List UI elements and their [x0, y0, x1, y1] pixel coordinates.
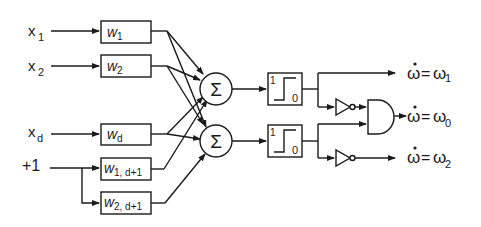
- svg-text:2: 2: [445, 158, 451, 170]
- not-gate-2: [336, 150, 395, 166]
- input-x1: x 1: [28, 22, 44, 43]
- weight-w1-bias: w 1, d+1: [101, 158, 151, 180]
- svg-text:Σ: Σ: [210, 131, 222, 152]
- svg-text:=: =: [421, 65, 430, 82]
- svg-text:ω: ω: [407, 107, 420, 126]
- weight-w2: w 2: [101, 55, 151, 77]
- svg-text:x: x: [28, 57, 36, 74]
- and-gate: [368, 100, 406, 134]
- svg-text:=: =: [421, 149, 430, 166]
- svg-text:x: x: [28, 22, 36, 39]
- svg-text:d: d: [37, 132, 43, 144]
- weight-w1: w 1: [101, 21, 151, 43]
- weight-w2-bias: w 2, d+1: [101, 192, 151, 214]
- summer-2: Σ: [200, 125, 232, 157]
- svg-text:ω: ω: [407, 148, 420, 167]
- output-omega2: ω = ω 2: [407, 146, 451, 170]
- svg-text:1: 1: [270, 75, 276, 86]
- svg-text:1: 1: [38, 31, 44, 43]
- svg-text:0: 0: [445, 117, 451, 129]
- svg-text:=: =: [421, 108, 430, 125]
- svg-text:1: 1: [270, 127, 276, 138]
- not-gate-1: [336, 99, 366, 115]
- svg-text:1: 1: [445, 72, 451, 84]
- svg-text:2: 2: [38, 66, 44, 78]
- network-diagram: x 1 x 2 x d +1 w 1 w 2 w d w 1, d+1 w 2,: [0, 0, 481, 227]
- output-omega1: ω = ω 1: [407, 62, 451, 84]
- input-bias: +1: [22, 157, 40, 174]
- connections: [151, 31, 207, 203]
- threshold-2: 1 0: [268, 125, 302, 157]
- svg-text:ω: ω: [407, 64, 420, 83]
- input-xd: x d: [28, 123, 43, 144]
- svg-text:1, d+1: 1, d+1: [114, 167, 143, 178]
- svg-text:d: d: [117, 133, 123, 144]
- summer-1: Σ: [200, 73, 232, 105]
- svg-text:2: 2: [117, 65, 123, 76]
- svg-text:Σ: Σ: [210, 79, 222, 100]
- svg-text:0: 0: [292, 144, 298, 156]
- weight-wd: w d: [101, 124, 151, 145]
- svg-text:2, d+1: 2, d+1: [114, 201, 143, 212]
- input-x2: x 2: [28, 57, 44, 78]
- svg-text:+1: +1: [22, 157, 40, 174]
- svg-text:x: x: [28, 123, 36, 140]
- threshold-1: 1 0: [268, 73, 302, 105]
- arrow-bias-2: [82, 168, 99, 203]
- svg-text:1: 1: [117, 31, 123, 42]
- svg-text:0: 0: [292, 92, 298, 104]
- output-omega0: ω = ω 0: [407, 105, 451, 129]
